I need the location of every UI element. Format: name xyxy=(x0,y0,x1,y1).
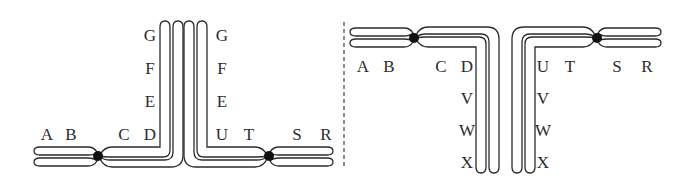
gene-label-V: V xyxy=(461,90,473,107)
gene-label-R: R xyxy=(320,126,331,143)
gene-label-A: A xyxy=(41,126,53,143)
right-panel-left-chromosome xyxy=(350,27,499,173)
gene-label-F: F xyxy=(217,60,226,77)
gene-label-S: S xyxy=(292,126,301,143)
gene-label-U: U xyxy=(537,58,549,75)
chromosome-drawing xyxy=(0,0,688,187)
right-panel-right-chromosome xyxy=(512,27,661,173)
gene-label-F: F xyxy=(145,60,154,77)
gene-label-C: C xyxy=(118,126,129,143)
gene-label-G: G xyxy=(144,27,156,44)
gene-label-B: B xyxy=(65,126,76,143)
gene-label-S: S xyxy=(612,58,621,75)
gene-label-U: U xyxy=(216,126,228,143)
gene-label-G: G xyxy=(216,27,228,44)
gene-label-W: W xyxy=(459,122,475,139)
left-panel-left-chromosome xyxy=(34,21,183,167)
gene-label-A: A xyxy=(357,58,369,75)
gene-label-D: D xyxy=(144,126,156,143)
left-panel-right-chromosome xyxy=(184,21,333,167)
gene-label-E: E xyxy=(145,93,155,110)
gene-label-D: D xyxy=(461,58,473,75)
gene-label-T: T xyxy=(244,126,254,143)
gene-label-X: X xyxy=(537,154,549,171)
gene-label-X: X xyxy=(461,154,473,171)
gene-label-B: B xyxy=(383,58,394,75)
gene-label-V: V xyxy=(537,90,549,107)
chromosome-diagram: A B C D E F G U T S R E F G A B C D V W … xyxy=(0,0,688,187)
gene-label-E: E xyxy=(217,93,227,110)
gene-label-C: C xyxy=(435,58,446,75)
gene-label-R: R xyxy=(641,58,652,75)
centromere xyxy=(93,151,103,161)
gene-label-T: T xyxy=(565,58,575,75)
gene-label-W: W xyxy=(535,122,551,139)
